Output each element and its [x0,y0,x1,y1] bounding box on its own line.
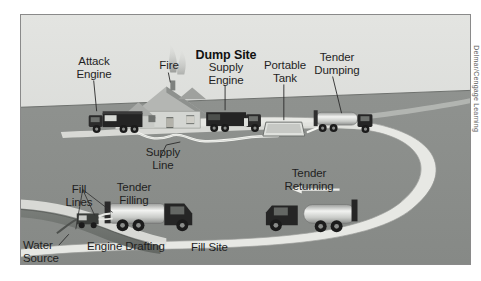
engine-drafting-wheel-rear [79,222,85,228]
tender-returning-window [274,207,288,215]
chimney [170,80,175,90]
illustration-frame: Dump Site Attack Engine Fire Supply Engi… [20,14,471,265]
label-tender-returning: Tender Returning [269,167,349,192]
tender-returning-hub-rear1 [318,224,323,229]
tender-returning-rear-rack [352,200,358,222]
tender-dumping-chute-arm [314,110,318,126]
credit-line: Delmar/Cengage Learning [473,45,480,132]
attack-engine-panel [105,115,117,121]
label-supply-line: Supply Line [133,146,193,171]
attack-engine-top [103,111,143,114]
label-supply-engine: Supply Engine [195,61,257,86]
label-fire: Fire [147,59,191,72]
house-window-left [148,115,155,122]
label-attack-engine: Attack Engine [61,55,127,80]
engine-drafting-panel [79,215,87,220]
engine-drafting-wheel-front [91,222,97,228]
label-water-source: Water Source [23,239,81,264]
tender-returning-tank [304,204,356,223]
supply-engine-pump-panel [244,118,248,126]
supply-engine-hub-rear2 [223,127,226,130]
supply-engine-windshield [249,116,258,121]
supply-engine-panel [208,114,220,120]
figure-page: Dump Site Attack Engine Fire Supply Engi… [0,0,481,281]
label-fill-lines: Fill Lines [55,183,103,208]
tender-filling-hub-rear1 [120,223,125,228]
label-fill-site: Fill Site [191,241,251,254]
tender-filling-hub-rear2 [136,223,141,228]
attack-engine-hub-rear1 [122,127,125,130]
attack-engine-hub-rear2 [133,127,136,130]
label-tender-filling: Tender Filling [103,181,165,206]
label-tender-dumping: Tender Dumping [304,51,370,76]
attack-engine-hub-front [95,127,98,130]
tender-dumping-hub-front [364,127,367,130]
tender-dumping-hub-rear2 [332,127,335,130]
tender-dumping-tank [316,112,358,125]
attack-engine-windshield [91,117,100,122]
tender-filling-window [170,206,184,214]
tender-dumping-windshield [360,116,369,121]
tender-dumping-hub-rear1 [321,127,324,130]
fire-glow-door [166,118,173,127]
supply-engine-hub-front [253,127,256,130]
portable-tank-water [266,124,302,133]
label-engine-drafting: Engine Drafting [87,240,197,253]
tender-returning-hub-front [273,223,278,228]
fire-glow-window [186,116,194,123]
portable-tank-graphic [263,122,305,136]
supply-engine-hub-rear1 [213,127,216,130]
tender-filling-hub-front [180,223,185,228]
tender-returning-hub-rear2 [334,224,339,229]
